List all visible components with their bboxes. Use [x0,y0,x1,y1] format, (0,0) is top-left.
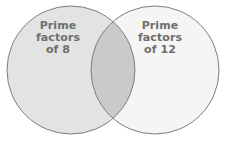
right-set-label-line-3: of 12 [129,44,191,56]
right-set-label-line-2: factors [129,32,191,44]
right-set-label: Prime factors of 12 [129,20,191,55]
left-set-label-line-3: of 8 [27,44,89,56]
left-set-label-line-2: factors [27,32,89,44]
venn-diagram-figure: Prime factors of 8 Prime factors of 12 [0,0,231,144]
left-set-label: Prime factors of 8 [27,20,89,55]
